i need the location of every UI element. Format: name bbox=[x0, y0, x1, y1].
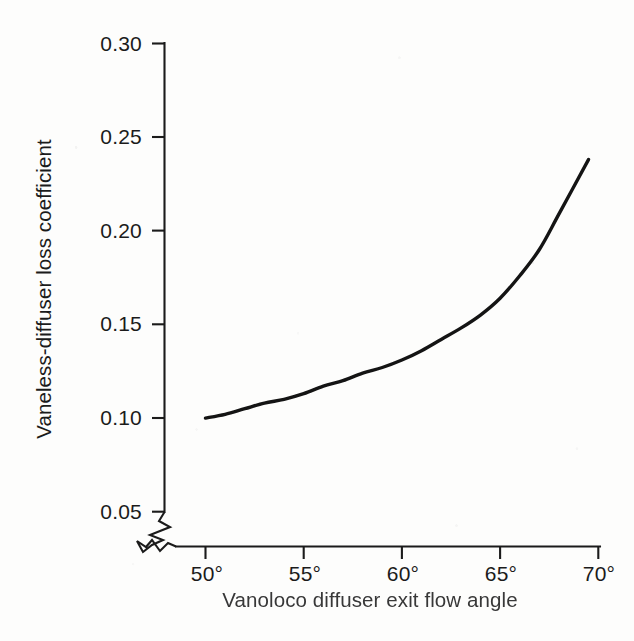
x-tick-label-0: 50° bbox=[191, 562, 223, 586]
x-tick-label-1: 55° bbox=[289, 562, 321, 586]
x-axis-title: Vanoloco diffuser exit flow angle bbox=[150, 588, 590, 612]
y-tick-label-3: 0.15 bbox=[42, 312, 142, 336]
y-tick-label-2: 0.20 bbox=[42, 219, 142, 243]
y-tick-label-1: 0.25 bbox=[42, 125, 142, 149]
axis-break-zigzag-icon bbox=[137, 512, 176, 552]
x-tick-label-2: 60° bbox=[387, 562, 419, 586]
y-tick-label-0: 0.30 bbox=[42, 32, 142, 56]
loss-coefficient-curve bbox=[206, 160, 589, 418]
x-tick-label-3: 65° bbox=[485, 562, 517, 586]
y-tick-label-5: 0.05 bbox=[42, 500, 142, 524]
x-tick-label-4: 70° bbox=[583, 562, 615, 586]
y-axis-ticks bbox=[152, 44, 165, 512]
figure-canvas: 0.30 0.25 0.20 0.15 0.10 0.05 50° 55° 60… bbox=[0, 0, 634, 641]
y-axis-title: Vaneless-diffuser loss coefficient bbox=[32, 79, 56, 499]
y-tick-label-4: 0.10 bbox=[42, 406, 142, 430]
x-axis-ticks bbox=[206, 547, 599, 560]
